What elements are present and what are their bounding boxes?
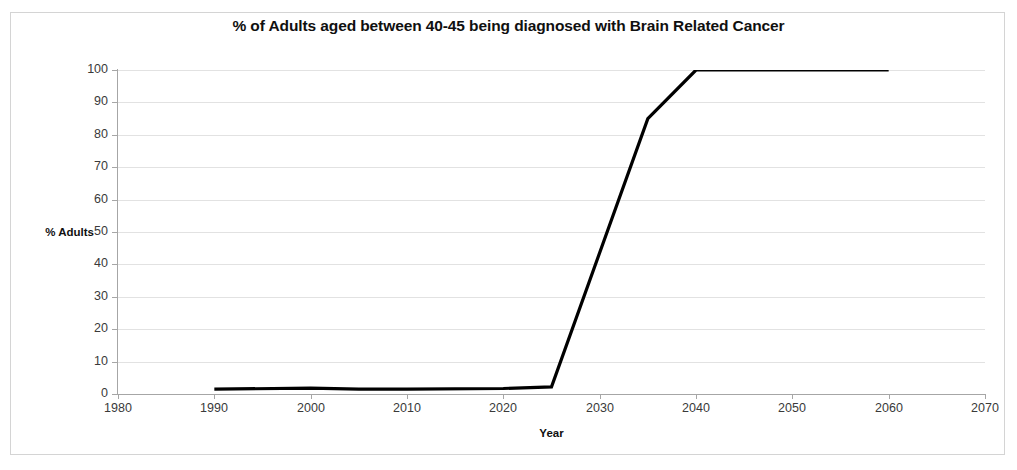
x-tick-label-2050: 2050 bbox=[762, 401, 822, 415]
x-tick-label-2010: 2010 bbox=[377, 401, 437, 415]
series-line-svg bbox=[118, 70, 985, 394]
x-tick-mark-2030 bbox=[600, 394, 601, 399]
y-tick-label-40: 40 bbox=[60, 256, 108, 270]
x-tick-label-2040: 2040 bbox=[666, 401, 726, 415]
y-tick-mark-0 bbox=[112, 394, 117, 395]
y-tick-mark-30 bbox=[112, 297, 117, 298]
data-series-line bbox=[214, 70, 888, 389]
y-tick-mark-40 bbox=[112, 264, 117, 265]
x-tick-label-1990: 1990 bbox=[184, 401, 244, 415]
x-tick-label-2000: 2000 bbox=[281, 401, 341, 415]
y-tick-mark-90 bbox=[112, 102, 117, 103]
x-tick-label-2070: 2070 bbox=[955, 401, 1015, 415]
x-tick-label-2060: 2060 bbox=[859, 401, 919, 415]
x-tick-mark-2050 bbox=[792, 394, 793, 399]
y-tick-mark-50 bbox=[112, 232, 117, 233]
x-tick-mark-2070 bbox=[985, 394, 986, 399]
y-tick-label-50: 50 bbox=[60, 224, 108, 238]
y-tick-label-30: 30 bbox=[60, 289, 108, 303]
y-tick-label-60: 60 bbox=[60, 192, 108, 206]
y-tick-label-70: 70 bbox=[60, 159, 108, 173]
x-tick-mark-1980 bbox=[118, 394, 119, 399]
y-tick-label-0: 0 bbox=[60, 386, 108, 400]
y-tick-mark-70 bbox=[112, 167, 117, 168]
y-tick-label-20: 20 bbox=[60, 321, 108, 335]
y-tick-label-100: 100 bbox=[60, 62, 108, 76]
y-tick-mark-80 bbox=[112, 135, 117, 136]
y-tick-mark-10 bbox=[112, 362, 117, 363]
y-tick-label-10: 10 bbox=[60, 354, 108, 368]
x-axis-title: Year bbox=[118, 427, 985, 439]
y-tick-mark-100 bbox=[112, 70, 117, 71]
x-tick-mark-2000 bbox=[311, 394, 312, 399]
x-axis-line bbox=[117, 394, 986, 395]
y-tick-mark-60 bbox=[112, 200, 117, 201]
x-tick-label-1980: 1980 bbox=[88, 401, 148, 415]
x-tick-mark-2010 bbox=[407, 394, 408, 399]
y-tick-label-90: 90 bbox=[60, 94, 108, 108]
x-tick-mark-1990 bbox=[214, 394, 215, 399]
x-tick-label-2020: 2020 bbox=[473, 401, 533, 415]
y-tick-mark-20 bbox=[112, 329, 117, 330]
x-tick-mark-2040 bbox=[696, 394, 697, 399]
x-tick-label-2030: 2030 bbox=[570, 401, 630, 415]
plot-area bbox=[118, 70, 985, 394]
x-tick-mark-2020 bbox=[503, 394, 504, 399]
y-tick-label-80: 80 bbox=[60, 127, 108, 141]
chart-title: % of Adults aged between 40-45 being dia… bbox=[0, 17, 1017, 35]
x-tick-mark-2060 bbox=[889, 394, 890, 399]
